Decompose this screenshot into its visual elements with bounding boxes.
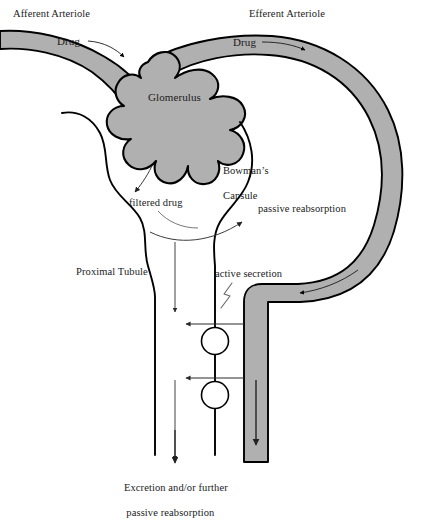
- label-proximal-tubule: Proximal Tubule: [76, 266, 148, 278]
- label-filtered-drug: filtered drug: [129, 197, 183, 209]
- label-bowmans-capsule: Bowman’s Capsule: [212, 153, 269, 227]
- label-bowmans-capsule-line2: Capsule: [212, 190, 269, 202]
- label-afferent-arteriole: Afferent Arteriole: [13, 8, 90, 20]
- secretion-site-lower: [186, 378, 244, 409]
- secretion-site-upper: [186, 324, 244, 355]
- label-passive-reabsorption: passive reabsorption: [258, 203, 346, 215]
- label-efferent-arteriole: Efferent Arteriole: [249, 8, 325, 20]
- label-excretion-line1: Excretion and/or further: [124, 482, 228, 493]
- transport-carrier-circle-upper: [202, 328, 229, 355]
- label-drug-efferent: Drug: [233, 36, 256, 49]
- label-glomerulus: Glomerulus: [148, 91, 201, 104]
- label-bowmans-capsule-line1: Bowman’s: [223, 165, 269, 176]
- label-active-secretion: active secretion: [215, 268, 282, 280]
- label-excretion-line2: passive reabsorption: [113, 507, 228, 519]
- filtered-drug-leader-line: [158, 211, 198, 228]
- label-excretion: Excretion and/or further passive reabsor…: [113, 470, 228, 522]
- active-secretion-zigzag-icon: [221, 283, 232, 308]
- transport-carrier-circle-lower: [202, 382, 229, 409]
- label-drug-afferent: Drug: [57, 35, 80, 48]
